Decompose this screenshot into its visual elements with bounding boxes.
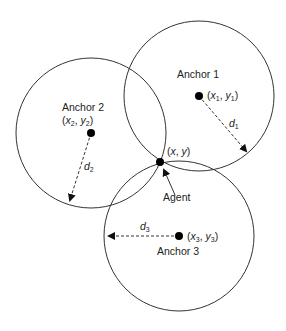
d2-label: d2: [84, 160, 94, 173]
anchor-2-label: Anchor 2: [62, 101, 104, 113]
anchor-1-dot: [195, 92, 203, 100]
agent-coord: (x, y): [167, 145, 190, 157]
agent-dot: [156, 158, 164, 166]
d3-label: d3: [140, 220, 150, 233]
d1-label: d1: [229, 117, 239, 130]
anchor-1-label: Anchor 1: [177, 68, 219, 80]
anchor-2-dot: [87, 129, 95, 137]
trilateration-diagram: Anchor 1 (x1, y1) d1 Anchor 2 (x2, y2) d…: [0, 0, 286, 331]
anchor-2-coord: (x2, y2): [62, 114, 93, 127]
anchor-3-coord: (x3, y3): [187, 230, 218, 243]
anchor-3-label: Anchor 3: [157, 245, 199, 257]
anchor-1-coord: (x1, y1): [207, 89, 238, 102]
agent-label: Agent: [163, 191, 191, 203]
d1-arrow: [199, 96, 246, 151]
anchor-3-dot: [175, 232, 183, 240]
